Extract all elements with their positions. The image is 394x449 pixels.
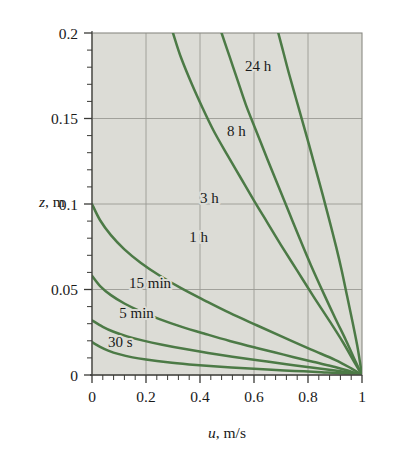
curve-label-15-min: 15 min <box>129 275 172 291</box>
curve-label-3-h: 3 h <box>200 190 219 206</box>
curve-label-5-min: 5 min <box>119 305 154 321</box>
x-tick-label: 0.2 <box>136 388 155 405</box>
x-tick-label: 0.4 <box>190 388 210 405</box>
x-tick-label: 0 <box>88 388 96 405</box>
curve-label-24-h: 24 h <box>245 58 272 74</box>
y-tick-label: 0.2 <box>59 25 78 42</box>
x-tick-label: 0.6 <box>244 388 264 405</box>
plot-area <box>92 33 362 375</box>
axis-title-variable: z <box>38 193 45 210</box>
figure-container: 00.20.40.60.81 00.050.10.150.2 30 s30 s5… <box>0 0 394 449</box>
curve-label-8-h: 8 h <box>227 123 246 139</box>
x-tick-label: 1 <box>358 388 366 405</box>
curve-label-1-h: 1 h <box>189 229 208 245</box>
y-axis-title: z, m <box>38 193 65 210</box>
velocity-profile-chart: 00.20.40.60.81 00.050.10.150.2 30 s30 s5… <box>0 0 394 449</box>
y-tick-label: 0 <box>70 367 78 384</box>
y-tick-label: 0.15 <box>51 110 78 127</box>
x-tick-labels: 00.20.40.60.81 <box>88 388 366 405</box>
axis-title-units: , m/s <box>216 424 246 441</box>
y-tick-label: 0.05 <box>51 281 78 298</box>
curve-label-30-s: 30 s <box>108 334 133 350</box>
x-tick-label: 0.8 <box>298 388 318 405</box>
axis-title-units: , m <box>45 193 65 210</box>
x-axis-title: u, m/s <box>208 424 246 441</box>
